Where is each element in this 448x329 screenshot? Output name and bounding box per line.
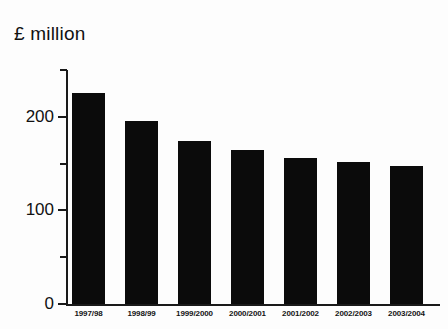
y-tick-major [58, 209, 67, 211]
bar [284, 158, 317, 304]
x-tick-label: 1998/99 [112, 309, 172, 318]
bar [337, 162, 370, 304]
x-tick-label: 2002/2003 [324, 309, 384, 318]
y-tick-minor [60, 256, 67, 258]
x-tick-label: 2003/2004 [377, 309, 437, 318]
x-tick-label: 2001/2002 [271, 309, 331, 318]
y-tick-label: 100 [8, 200, 54, 220]
bar [390, 166, 423, 304]
bar [178, 141, 211, 304]
plot-area: 0100200 1997/981998/991999/20002000/2001… [0, 0, 448, 329]
bar [72, 93, 105, 304]
bar [125, 121, 158, 304]
y-tick-minor [60, 163, 67, 165]
x-tick-label: 1997/98 [59, 309, 119, 318]
x-tick-label: 1999/2000 [165, 309, 225, 318]
y-tick-minor [60, 69, 67, 71]
y-tick-label: 200 [8, 107, 54, 127]
y-tick-major [58, 303, 67, 305]
x-tick-label: 2000/2001 [218, 309, 278, 318]
x-axis-line [66, 304, 440, 306]
bar [231, 150, 264, 304]
y-tick-label: 0 [8, 294, 54, 314]
chart-screenshot: £ million 0100200 1997/981998/991999/200… [0, 0, 448, 329]
y-tick-major [58, 116, 67, 118]
y-axis-line [66, 70, 68, 306]
